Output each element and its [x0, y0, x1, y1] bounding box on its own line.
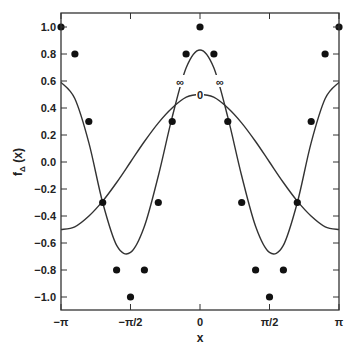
sample-point	[308, 118, 315, 125]
y-tick-label: 0.6	[41, 75, 56, 87]
curve-zero	[61, 95, 339, 230]
sample-point	[322, 50, 329, 57]
x-tick-label: −π/2	[118, 316, 142, 328]
sample-point	[224, 118, 231, 125]
y-tick-label: −0.8	[34, 264, 56, 276]
curve-infinity	[61, 50, 339, 254]
x-axis-ticks: −π−π/20π/2π	[54, 13, 344, 328]
y-axis-ticks: 1.00.80.60.40.20.0−0.2−0.4−0.6−0.8−1.0	[34, 21, 339, 303]
y-tick-label: 0.2	[41, 129, 56, 141]
chart: 0∞∞ 1.00.80.60.40.20.0−0.2−0.4−0.6−0.8−1…	[0, 0, 354, 352]
curve-label-infinity: ∞	[176, 76, 184, 88]
y-tick-label: 0.0	[41, 156, 56, 168]
y-tick-label: −0.6	[34, 237, 56, 249]
sample-point	[252, 266, 259, 273]
x-tick-label: 0	[197, 316, 203, 328]
y-tick-label: 0.4	[41, 102, 57, 114]
sample-point	[141, 266, 148, 273]
curve-label-zero: 0	[197, 89, 203, 101]
curve-label-infinity: ∞	[216, 76, 224, 88]
sample-point	[294, 199, 301, 206]
x-tick-label: −π	[54, 316, 69, 328]
curves-layer	[61, 50, 339, 254]
sample-point	[155, 199, 162, 206]
y-tick-label: 1.0	[41, 21, 56, 33]
y-axis-title: fΔ (x)	[11, 148, 27, 176]
y-tick-label: 0.8	[41, 48, 56, 60]
sample-point	[196, 23, 203, 30]
sample-point	[280, 266, 287, 273]
sample-point	[99, 199, 106, 206]
y-tick-label: −0.4	[34, 210, 57, 222]
sample-point	[169, 118, 176, 125]
y-tick-label: −1.0	[34, 291, 56, 303]
y-tick-label: −0.2	[34, 183, 56, 195]
curve-labels-layer: 0∞∞	[173, 75, 227, 101]
sample-point	[183, 50, 190, 57]
plot-frame	[61, 13, 339, 310]
sample-points-layer	[57, 23, 342, 300]
sample-point	[113, 266, 120, 273]
sample-point	[266, 293, 273, 300]
sample-point	[127, 293, 134, 300]
sample-point	[71, 50, 78, 57]
x-axis-title: x	[197, 331, 204, 345]
sample-point	[238, 199, 245, 206]
x-tick-label: π	[335, 316, 344, 328]
sample-point	[210, 50, 217, 57]
x-tick-label: π/2	[261, 316, 279, 328]
sample-point	[85, 118, 92, 125]
